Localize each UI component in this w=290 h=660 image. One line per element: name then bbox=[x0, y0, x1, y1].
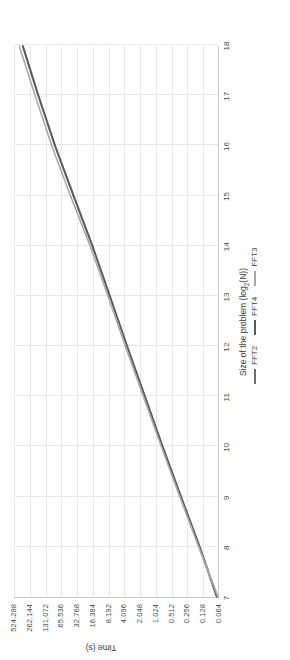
y-tick-label: 0.128 bbox=[198, 604, 207, 660]
legend-item-fft3[interactable]: FFT3 bbox=[250, 248, 259, 286]
x-tick-label: 11 bbox=[222, 377, 231, 417]
x-tick-label: 14 bbox=[222, 227, 231, 267]
x-tick-label: 7 bbox=[222, 578, 231, 618]
legend-swatch-icon bbox=[254, 271, 256, 286]
chart-legend: FFT2FFT4FFT3 bbox=[250, 248, 259, 384]
x-tick-label: 17 bbox=[222, 76, 231, 116]
x-axis-title-subscript: 2 bbox=[243, 283, 250, 287]
rotated-figure-container: Time (s) 0.0640.1280.2560.5121.0242.0484… bbox=[0, 0, 290, 660]
legend-item-fft2[interactable]: FFT2 bbox=[250, 346, 259, 384]
series-lines bbox=[14, 46, 218, 597]
legend-label: FFT3 bbox=[250, 248, 259, 267]
chart-figure: Time (s) 0.0640.1280.2560.5121.0242.0484… bbox=[0, 0, 290, 660]
x-tick-label: 10 bbox=[222, 427, 231, 467]
x-tick-label: 8 bbox=[222, 528, 231, 568]
x-tick-label: 9 bbox=[222, 478, 231, 518]
y-tick-label: 16.384 bbox=[88, 604, 97, 660]
y-tick-label: 0.256 bbox=[182, 604, 191, 660]
y-tick-label: 32.768 bbox=[72, 604, 81, 660]
x-tick-label: 18 bbox=[222, 26, 231, 66]
legend-label: FFT4 bbox=[250, 297, 259, 316]
y-tick-label: 524.288 bbox=[9, 604, 18, 660]
x-axis-title: Size of the problem (log2(N)) bbox=[238, 46, 250, 598]
y-tick-label: 2.048 bbox=[135, 604, 144, 660]
series-line-fft4 bbox=[23, 46, 217, 597]
y-tick-label: 65.536 bbox=[56, 604, 65, 660]
x-axis-title-suffix: (N)) bbox=[238, 268, 248, 283]
plot-area bbox=[14, 46, 219, 598]
x-tick-label: 12 bbox=[222, 327, 231, 367]
x-tick-label: 13 bbox=[222, 277, 231, 317]
y-tick-label: 0.512 bbox=[167, 604, 176, 660]
legend-item-fft4[interactable]: FFT4 bbox=[250, 297, 259, 335]
x-tick-label: 15 bbox=[222, 177, 231, 217]
gridline-vertical bbox=[14, 44, 218, 45]
y-tick-label: 262.144 bbox=[25, 604, 34, 660]
legend-label: FFT2 bbox=[250, 346, 259, 365]
y-tick-label: 131.072 bbox=[41, 604, 50, 660]
y-tick-label: 4.096 bbox=[119, 604, 128, 660]
legend-swatch-icon bbox=[254, 320, 256, 335]
y-tick-label: 8.192 bbox=[104, 604, 113, 660]
legend-swatch-icon bbox=[254, 369, 256, 384]
y-tick-label: 1.024 bbox=[151, 604, 160, 660]
x-axis-title-prefix: Size of the problem (log bbox=[238, 286, 248, 376]
x-tick-label: 16 bbox=[222, 126, 231, 166]
